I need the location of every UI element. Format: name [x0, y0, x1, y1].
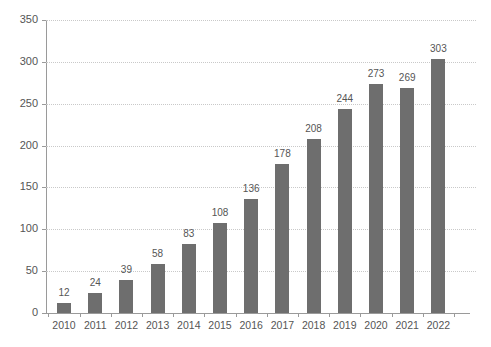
- x-axis-tick-mark: [173, 313, 174, 317]
- y-axis-tick-label: 100: [0, 223, 38, 234]
- bar-chart: 050100150200250300350 122010242011392012…: [0, 0, 491, 347]
- y-axis-tick-label: 350: [0, 14, 38, 25]
- x-axis-tick-mark: [298, 313, 299, 317]
- bar-value-label: 136: [231, 184, 271, 194]
- y-axis-tick-mark: [42, 146, 46, 147]
- x-axis-tick-mark: [204, 313, 205, 317]
- gridline: [46, 62, 476, 63]
- bar-value-label: 58: [138, 249, 178, 259]
- bar[interactable]: [400, 88, 414, 313]
- bar[interactable]: [119, 280, 133, 313]
- x-axis-tick-mark: [267, 313, 268, 317]
- bar[interactable]: [213, 223, 227, 313]
- x-axis-tick-mark: [360, 313, 361, 317]
- bar-value-label: 244: [325, 94, 365, 104]
- bar[interactable]: [244, 199, 258, 313]
- y-axis-tick-label: 300: [0, 56, 38, 67]
- bar[interactable]: [88, 293, 102, 313]
- y-axis-tick-label: 250: [0, 98, 38, 109]
- bar-value-label: 303: [418, 44, 458, 54]
- y-axis-tick-mark: [42, 62, 46, 63]
- bar-value-label: 178: [262, 149, 302, 159]
- bar[interactable]: [57, 303, 71, 313]
- y-axis-tick-mark: [42, 104, 46, 105]
- x-axis-tick-mark: [236, 313, 237, 317]
- gridline: [46, 20, 476, 21]
- y-axis-tick-mark: [42, 313, 46, 314]
- y-axis-tick-mark: [42, 229, 46, 230]
- x-axis-tick-mark: [111, 313, 112, 317]
- bar[interactable]: [369, 84, 383, 313]
- y-axis-tick-label: 0: [0, 307, 38, 318]
- bar-value-label: 208: [294, 124, 334, 134]
- y-axis-tick-mark: [42, 271, 46, 272]
- y-axis-tick-mark: [42, 20, 46, 21]
- x-axis-tick-label: 2022: [418, 320, 458, 331]
- x-axis-tick-mark: [423, 313, 424, 317]
- x-axis-tick-mark: [80, 313, 81, 317]
- y-axis-tick-label: 50: [0, 265, 38, 276]
- bar-value-label: 108: [200, 208, 240, 218]
- x-axis-tick-mark: [142, 313, 143, 317]
- x-axis-line: [46, 313, 470, 314]
- bar[interactable]: [275, 164, 289, 313]
- y-axis-tick-label: 150: [0, 181, 38, 192]
- x-axis-tick-mark: [454, 313, 455, 317]
- y-axis-tick-label: 200: [0, 140, 38, 151]
- bar[interactable]: [338, 109, 352, 313]
- x-axis-tick-mark: [392, 313, 393, 317]
- bar[interactable]: [182, 244, 196, 313]
- bar[interactable]: [431, 59, 445, 313]
- bar-value-label: 83: [169, 229, 209, 239]
- x-axis-tick-mark: [48, 313, 49, 317]
- y-axis-tick-mark: [42, 187, 46, 188]
- bar-value-label: 269: [387, 73, 427, 83]
- bar-value-label: 39: [106, 265, 146, 275]
- bar[interactable]: [307, 139, 321, 313]
- x-axis-tick-mark: [329, 313, 330, 317]
- bar[interactable]: [151, 264, 165, 313]
- bar-value-label: 12: [44, 288, 84, 298]
- bar-value-label: 24: [75, 278, 115, 288]
